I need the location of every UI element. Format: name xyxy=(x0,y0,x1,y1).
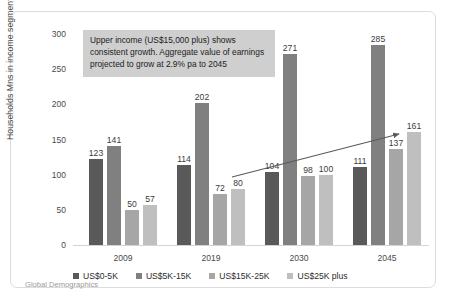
bar-value-label: 72 xyxy=(215,183,225,193)
bar[interactable]: 137 xyxy=(389,149,403,245)
bar[interactable]: 80 xyxy=(231,189,245,245)
bar-group-2045: 1112851371612045 xyxy=(353,34,421,245)
bar-value-label: 114 xyxy=(177,154,191,164)
y-axis-tick: 250 xyxy=(52,64,66,74)
bar-value-label: 141 xyxy=(107,135,121,145)
bar-value-label: 98 xyxy=(303,165,313,175)
bar-value-label: 111 xyxy=(353,156,366,166)
bar-value-label: 100 xyxy=(319,164,333,174)
y-axis-tick: 300 xyxy=(52,29,66,39)
bar[interactable]: 271 xyxy=(283,54,297,245)
bar-value-label: 285 xyxy=(371,34,385,44)
y-axis-tick: 200 xyxy=(52,99,66,109)
bar-value-label: 50 xyxy=(127,199,137,209)
bar-value-label: 57 xyxy=(145,194,155,204)
bar[interactable]: 123 xyxy=(89,159,103,246)
y-axis-tick: 50 xyxy=(57,205,66,215)
bar-group-2030: 104271981002030 xyxy=(265,34,333,245)
bar[interactable]: 202 xyxy=(195,103,209,245)
legend-item[interactable]: US$25K plus xyxy=(287,271,347,281)
bar[interactable]: 104 xyxy=(265,172,279,245)
legend-label: US$15K-25K xyxy=(219,271,269,281)
x-axis-category-label: 2019 xyxy=(201,253,220,263)
legend-label: US$5K-15K xyxy=(146,271,191,281)
annotation-textbox: Upper income (US$15,000 plus) shows cons… xyxy=(83,30,275,77)
bar-value-label: 104 xyxy=(265,161,279,171)
bar[interactable]: 98 xyxy=(301,176,315,245)
bar[interactable]: 50 xyxy=(125,210,139,245)
legend-label: US$25K plus xyxy=(297,271,347,281)
y-axis-title: Households Mns in income segment xyxy=(5,0,15,140)
legend-swatch xyxy=(73,273,79,279)
legend-swatch xyxy=(287,273,293,279)
chart-legend: US$0-5KUS$5K-15KUS$15K-25KUS$25K plus xyxy=(73,271,413,281)
source-caption: Global Demographics xyxy=(25,280,98,289)
x-axis-category-label: 2030 xyxy=(289,253,308,263)
y-axis-tick: 0 xyxy=(61,240,66,250)
bar-value-label: 137 xyxy=(389,138,403,148)
bar-value-label: 202 xyxy=(195,92,209,102)
bar-value-label: 123 xyxy=(89,148,103,158)
legend-swatch xyxy=(136,273,142,279)
bar[interactable]: 285 xyxy=(371,45,385,245)
bar[interactable]: 141 xyxy=(107,146,121,245)
bar[interactable]: 111 xyxy=(353,167,367,245)
bar-value-label: 271 xyxy=(283,43,297,53)
legend-item[interactable]: US$5K-15K xyxy=(136,271,191,281)
bar[interactable]: 72 xyxy=(213,194,227,245)
y-axis-tick: 100 xyxy=(52,170,66,180)
bar[interactable]: 114 xyxy=(177,165,191,245)
bar[interactable]: 57 xyxy=(143,205,157,245)
x-axis-category-label: 2045 xyxy=(377,253,396,263)
bar[interactable]: 100 xyxy=(319,175,333,245)
x-axis-line xyxy=(73,245,429,246)
bar-value-label: 80 xyxy=(233,178,243,188)
legend-item[interactable]: US$15K-25K xyxy=(209,271,269,281)
x-axis-category-label: 2009 xyxy=(113,253,132,263)
legend-swatch xyxy=(209,273,215,279)
bar-value-label: 161 xyxy=(407,121,421,131)
y-axis-tick: 150 xyxy=(52,135,66,145)
bar[interactable]: 161 xyxy=(407,132,421,245)
chart-frame: Households Mns in income segment 0501001… xyxy=(10,11,436,288)
